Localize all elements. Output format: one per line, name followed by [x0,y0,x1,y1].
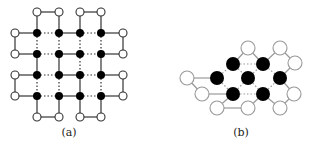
filled-site-node [97,29,105,37]
filled-site-node [33,71,41,79]
filled-site-node [226,57,240,71]
open-site-node [55,113,63,121]
open-site-node [11,92,19,100]
filled-site-node [55,29,63,37]
open-site-node [11,29,19,37]
open-site-node [241,101,255,115]
filled-site-node [210,71,224,85]
open-site-node [119,29,127,37]
open-site-node [210,101,224,115]
open-site-node [97,113,105,121]
filled-site-node [97,92,105,100]
filled-site-node [55,92,63,100]
open-site-node [287,87,301,101]
filled-site-node [273,71,287,85]
open-site-node [76,8,84,16]
open-site-node [33,8,41,16]
filled-site-node [97,50,105,58]
filled-site-node [55,71,63,79]
open-site-node [180,71,194,85]
filled-site-node [256,87,270,101]
open-site-node [11,71,19,79]
open-site-node [55,8,63,16]
panel-b-triangular-lattice [180,41,302,115]
open-site-node [11,50,19,58]
open-site-node [119,50,127,58]
filled-site-node [33,29,41,37]
filled-site-node [76,50,84,58]
filled-site-node [76,92,84,100]
open-site-node [76,113,84,121]
panel-b-label: (b) [233,126,249,139]
panel-a-label: (a) [61,126,76,139]
lattice-figure: (a) (b) [0,0,311,147]
filled-site-node [97,71,105,79]
open-site-node [273,41,287,55]
filled-site-node [55,50,63,58]
open-site-node [241,41,255,55]
open-site-node [119,71,127,79]
filled-site-node [76,71,84,79]
filled-site-node [33,92,41,100]
open-site-node [273,101,287,115]
filled-site-node [226,87,240,101]
open-site-node [97,8,105,16]
filled-site-node [241,71,255,85]
filled-site-node [256,57,270,71]
filled-site-node [33,50,41,58]
open-site-node [288,56,302,70]
open-site-node [119,92,127,100]
filled-site-node [76,29,84,37]
open-site-node [33,113,41,121]
panel-a-square-lattice [11,8,127,121]
open-site-node [195,87,209,101]
